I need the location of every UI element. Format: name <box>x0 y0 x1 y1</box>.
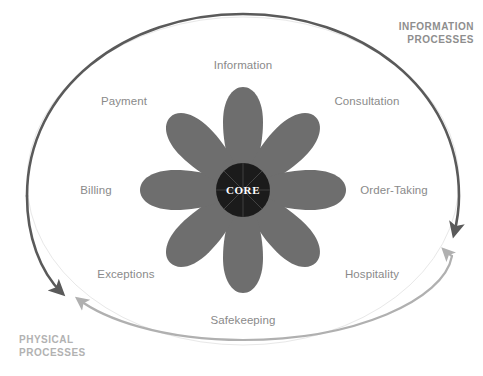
petal-label-payment: Payment <box>101 95 147 108</box>
information-processes-arc-left <box>27 196 62 293</box>
petal-label-hospitality: Hospitality <box>345 268 399 281</box>
physical-processes-line2: PROCESSES <box>19 347 86 358</box>
petal-label-order-taking: Order-Taking <box>360 184 428 197</box>
flower-of-service-diagram: CORE Information Consultation Order-Taki… <box>0 0 483 376</box>
petal-label-safekeeping: Safekeeping <box>210 314 275 327</box>
petal-label-exceptions: Exceptions <box>97 268 154 281</box>
information-processes-line2: PROCESSES <box>407 34 474 45</box>
information-processes-line1: INFORMATION <box>399 21 474 32</box>
petal-label-billing: Billing <box>80 184 111 197</box>
core-label: CORE <box>226 184 260 196</box>
physical-processes-line1: PHYSICAL <box>19 334 74 345</box>
physical-processes-arc-right <box>444 250 452 256</box>
petal-label-information: Information <box>214 59 273 72</box>
petal-label-consultation: Consultation <box>334 95 399 108</box>
physical-processes-label: PHYSICAL PROCESSES <box>19 334 86 359</box>
information-processes-label: INFORMATION PROCESSES <box>399 21 474 46</box>
